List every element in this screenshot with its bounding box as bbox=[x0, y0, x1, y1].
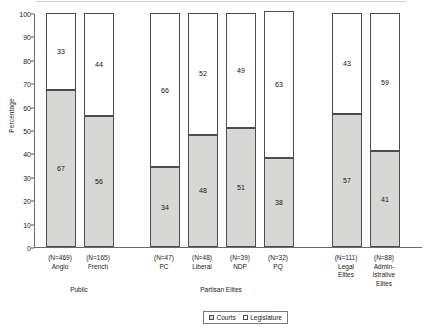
y-axis-ticks: 0102030405060708090100 bbox=[0, 0, 31, 334]
bar-segment-legislature: 66 bbox=[150, 13, 180, 167]
bar-value-courts: 56 bbox=[95, 178, 103, 185]
y-tick-label-100: 100 bbox=[7, 11, 31, 18]
bar-value-legislature: 43 bbox=[343, 60, 351, 67]
legend-item-courts: Courts bbox=[209, 314, 236, 321]
group-label-partisan: Partisan Elites bbox=[171, 286, 271, 293]
bar-segment-courts: 56 bbox=[84, 116, 114, 247]
y-axis-title: Percentage bbox=[8, 86, 15, 146]
bar-segment-legislature: 52 bbox=[188, 13, 218, 135]
bar-value-legislature: 66 bbox=[161, 87, 169, 94]
bar-segment-courts: 48 bbox=[188, 135, 218, 247]
bar-value-legislature: 44 bbox=[95, 61, 103, 68]
bar-legal-elites: 5743 bbox=[332, 14, 362, 247]
y-tick-label-30: 30 bbox=[7, 174, 31, 181]
bar-administrative-elites: 4159 bbox=[370, 14, 400, 247]
bar-segment-legislature: 43 bbox=[332, 13, 362, 114]
chart-legend: CourtsLegislature bbox=[203, 311, 288, 324]
bar-pq: 3863 bbox=[264, 14, 294, 247]
legend-item-legislature: Legislature bbox=[243, 314, 282, 321]
y-tick-label-10: 10 bbox=[7, 221, 31, 228]
bar-ndp: 5149 bbox=[226, 14, 256, 247]
bar-value-courts: 48 bbox=[199, 187, 207, 194]
bar-segment-courts: 67 bbox=[46, 90, 76, 247]
bar-value-legislature: 52 bbox=[199, 70, 207, 77]
bar-value-courts: 51 bbox=[237, 184, 245, 191]
cropped-title-rule bbox=[36, 1, 406, 2]
bar-value-courts: 67 bbox=[57, 165, 65, 172]
y-tick-label-0: 0 bbox=[7, 245, 31, 252]
bar-segment-courts: 51 bbox=[226, 128, 256, 247]
bar-french: 5644 bbox=[84, 14, 114, 247]
bar-value-legislature: 59 bbox=[381, 79, 389, 86]
bar-segment-legislature: 33 bbox=[46, 13, 76, 90]
chart-container: 0102030405060708090100 Percentage 673356… bbox=[0, 0, 426, 334]
y-tick-label-90: 90 bbox=[7, 34, 31, 41]
bar-segment-courts: 38 bbox=[264, 158, 294, 247]
x-tick-label-pq: (N=32) PQ bbox=[248, 254, 308, 271]
y-tick-label-80: 80 bbox=[7, 57, 31, 64]
bar-segment-legislature: 49 bbox=[226, 13, 256, 128]
y-tick-label-40: 40 bbox=[7, 151, 31, 158]
bar-liberal: 4852 bbox=[188, 14, 218, 247]
x-tick-label-french: (N=165) French bbox=[68, 254, 128, 271]
bar-segment-courts: 57 bbox=[332, 114, 362, 247]
group-label-public: Public bbox=[29, 286, 129, 293]
bar-value-courts: 34 bbox=[161, 204, 169, 211]
bar-segment-courts: 41 bbox=[370, 151, 400, 247]
bar-segment-legislature: 59 bbox=[370, 13, 400, 151]
legend-label-courts: Courts bbox=[217, 314, 236, 321]
bar-value-courts: 57 bbox=[343, 177, 351, 184]
legend-swatch-courts bbox=[209, 315, 214, 320]
bar-anglo: 6733 bbox=[46, 14, 76, 247]
plot-area: 67335644346648525149386357434159 bbox=[34, 14, 422, 248]
legend-label-legislature: Legislature bbox=[250, 314, 282, 321]
bar-pc: 3466 bbox=[150, 14, 180, 247]
legend-swatch-legislature bbox=[243, 315, 248, 320]
bars-layer: 67335644346648525149386357434159 bbox=[35, 14, 422, 247]
bar-segment-legislature: 63 bbox=[264, 11, 294, 158]
bar-segment-legislature: 44 bbox=[84, 13, 114, 116]
x-tick-label-administrative-elites: (N=88) Admin- istrative Elites bbox=[354, 254, 414, 288]
bar-value-legislature: 49 bbox=[237, 67, 245, 74]
bar-value-courts: 41 bbox=[381, 196, 389, 203]
bar-segment-courts: 34 bbox=[150, 167, 180, 247]
y-tick-label-20: 20 bbox=[7, 198, 31, 205]
bar-value-legislature: 63 bbox=[275, 81, 283, 88]
bar-value-courts: 38 bbox=[275, 199, 283, 206]
bar-value-legislature: 33 bbox=[57, 48, 65, 55]
